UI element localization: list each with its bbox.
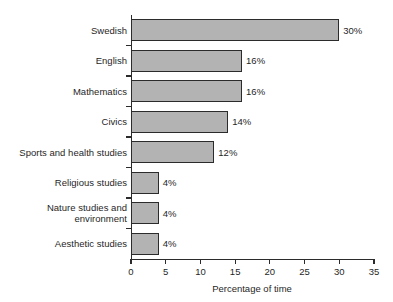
x-tick-label-35: 35: [369, 266, 380, 277]
x-axis-title: Percentage of time: [212, 283, 292, 294]
bar[interactable]: [131, 172, 159, 194]
category-label: Aesthetic studies: [0, 238, 127, 249]
bar-value-label: 30%: [343, 25, 362, 36]
category-label: Swedish: [0, 25, 127, 36]
x-tick-25: [304, 259, 305, 264]
x-tick-label-15: 15: [230, 266, 241, 277]
x-tick-label-25: 25: [299, 266, 310, 277]
bar-chart: 05101520253035 30%16%16%14%12%4%4%4% Swe…: [0, 0, 393, 302]
bar-value-label: 14%: [232, 116, 251, 127]
category-label: Nature studies and environment: [0, 202, 127, 224]
category-label: Sports and health studies: [0, 147, 127, 158]
x-tick-0: [130, 259, 131, 264]
category-label: Religious studies: [0, 177, 127, 188]
y-tick-3: [126, 106, 131, 107]
bar-value-label: 16%: [246, 55, 265, 66]
bar[interactable]: [131, 141, 214, 163]
y-tick-1: [126, 45, 131, 46]
bar[interactable]: [131, 202, 159, 224]
bar[interactable]: [131, 50, 242, 72]
category-label: English: [0, 55, 127, 66]
category-label: Civics: [0, 116, 127, 127]
bar[interactable]: [131, 233, 159, 255]
bar[interactable]: [131, 111, 228, 133]
bar-value-label: 4%: [163, 177, 177, 188]
bar-value-label: 16%: [246, 86, 265, 97]
y-tick-4: [126, 136, 131, 137]
y-tick-5: [126, 167, 131, 168]
x-tick-35: [373, 259, 374, 264]
y-tick-2: [126, 75, 131, 76]
bar-value-label: 4%: [163, 208, 177, 219]
x-tick-label-10: 10: [195, 266, 206, 277]
x-tick-20: [269, 259, 270, 264]
x-tick-15: [235, 259, 236, 264]
bar[interactable]: [131, 19, 339, 41]
bar[interactable]: [131, 80, 242, 102]
y-tick-7: [126, 228, 131, 229]
x-tick-label-30: 30: [334, 266, 345, 277]
x-tick-10: [200, 259, 201, 264]
category-label: Mathematics: [0, 86, 127, 97]
bar-value-label: 4%: [163, 238, 177, 249]
y-tick-6: [126, 197, 131, 198]
x-tick-5: [165, 259, 166, 264]
x-tick-label-5: 5: [163, 266, 168, 277]
bar-value-label: 12%: [218, 147, 237, 158]
x-tick-label-20: 20: [265, 266, 276, 277]
x-tick-30: [339, 259, 340, 264]
x-tick-label-0: 0: [128, 266, 133, 277]
